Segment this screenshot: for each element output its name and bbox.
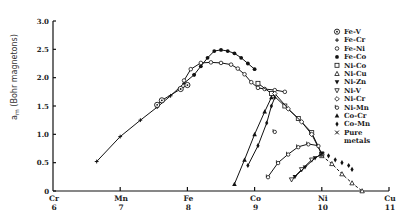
series-co-cr xyxy=(232,95,274,186)
legend-label-cont: metals xyxy=(344,136,370,145)
x-tick-number-label: 10 xyxy=(318,203,328,212)
y-tick-label: 3.0 xyxy=(37,17,49,26)
data-point xyxy=(182,79,186,83)
x-tick-element-label: Cr xyxy=(49,194,60,203)
data-point xyxy=(233,51,237,55)
series-fe-v xyxy=(155,82,190,107)
data-point xyxy=(340,172,344,176)
data-point xyxy=(256,81,260,85)
x-tick-element-label: Ni xyxy=(318,194,328,203)
data-point xyxy=(189,67,193,71)
data-point xyxy=(276,160,279,165)
data-point xyxy=(242,157,247,161)
y-tick-label: 2.0 xyxy=(37,73,49,82)
data-point xyxy=(232,182,237,186)
legend-marker-icon xyxy=(335,122,338,127)
legend-marker-icon xyxy=(335,80,340,84)
legend-marker-icon xyxy=(335,55,339,59)
x-tick-number-label: 7 xyxy=(119,203,124,212)
series-line xyxy=(234,98,271,185)
data-point xyxy=(219,48,223,52)
series-line xyxy=(295,154,322,177)
legend-marker-icon xyxy=(335,113,340,117)
data-point xyxy=(229,63,233,67)
data-point xyxy=(239,56,243,60)
data-point xyxy=(243,72,247,76)
x-tick-element-label: Co xyxy=(250,194,261,203)
series-ni-mn-isolated xyxy=(273,129,276,133)
data-point xyxy=(283,90,287,94)
data-point xyxy=(236,67,240,71)
data-point xyxy=(253,67,257,71)
series-fe-ni xyxy=(182,61,286,94)
data-point xyxy=(262,109,267,113)
data-point xyxy=(350,167,353,172)
data-point xyxy=(185,82,190,87)
legend-marker-icon xyxy=(335,105,338,110)
series-co-mn xyxy=(246,95,276,168)
data-point xyxy=(340,160,343,165)
data-point xyxy=(327,153,330,158)
legend-marker-icon xyxy=(335,71,339,75)
legend-marker-icon xyxy=(335,89,339,93)
data-point xyxy=(212,49,216,53)
slater-pauling-chart: 00.51.01.52.02.53.0 Cr6Mn7Fe8Co9Ni10Cu11… xyxy=(0,0,416,223)
data-point xyxy=(159,98,164,103)
legend-marker-icon xyxy=(335,63,339,67)
y-axis-label: am (Bohr magnetons) xyxy=(10,34,20,120)
legend-item: Puremetals xyxy=(335,128,370,145)
data-point xyxy=(297,144,300,149)
data-point xyxy=(287,152,290,157)
x-tick-number-label: 11 xyxy=(385,203,395,212)
legend: Fe-VFe-CrFe-NiFe-CoNi-CoNi-CuNi-ZnNi-VNi… xyxy=(334,27,370,145)
x-tick-number-label: 8 xyxy=(186,203,191,212)
data-point xyxy=(256,86,260,90)
axes xyxy=(53,21,389,191)
y-tick-label: 1.5 xyxy=(37,102,49,111)
data-point xyxy=(307,142,310,147)
x-tick-element-label: Fe xyxy=(184,194,194,203)
data-point xyxy=(155,102,160,107)
legend-marker-icon xyxy=(335,97,340,102)
data-point xyxy=(350,181,354,185)
data-point xyxy=(334,157,337,162)
legend-marker-icon xyxy=(335,131,339,135)
data-point xyxy=(192,73,196,77)
y-tick-label: 0.5 xyxy=(37,158,49,167)
data-point xyxy=(199,61,203,65)
x-tick-number-label: 6 xyxy=(51,203,56,212)
data-point xyxy=(209,61,213,65)
data-point xyxy=(273,129,276,133)
data-point xyxy=(347,163,350,168)
data-point xyxy=(226,49,230,53)
data-point xyxy=(252,132,257,136)
y-tick-label: 1.0 xyxy=(37,130,49,139)
data-point xyxy=(249,80,253,84)
x-tick-number-label: 9 xyxy=(253,203,258,212)
legend-marker-icon xyxy=(335,38,339,42)
x-tick-element-label: Cu xyxy=(384,194,396,203)
series-group xyxy=(95,48,365,193)
data-point xyxy=(178,86,183,91)
data-point xyxy=(246,62,250,66)
legend-marker-icon xyxy=(335,47,339,51)
y-tick-label: 2.5 xyxy=(37,45,49,54)
x-tick-element-label: Mn xyxy=(114,194,128,203)
data-point xyxy=(289,178,293,182)
series-ni-cu xyxy=(320,154,365,193)
series-line xyxy=(248,98,275,166)
data-point xyxy=(206,56,210,60)
legend-marker-icon xyxy=(334,29,339,34)
data-point xyxy=(219,61,223,65)
